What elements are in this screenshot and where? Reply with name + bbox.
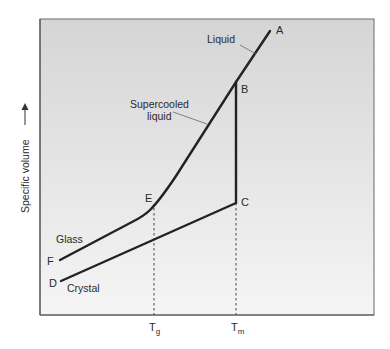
supercooled-label-line2: liquid — [147, 110, 172, 122]
y-axis-arrow-icon — [22, 103, 29, 110]
specific-volume-diagram: A B C E F D Liquid Supercooled liquid Gl… — [0, 0, 390, 349]
plot-area — [40, 19, 374, 315]
crystal-label: Crystal — [67, 282, 100, 294]
y-axis-label-group: Specific volume — [19, 103, 31, 213]
point-label-e: E — [145, 192, 152, 204]
svg-text:Tm: Tm — [231, 321, 245, 336]
point-label-a: A — [276, 24, 284, 36]
supercooled-label-line1: Supercooled — [130, 98, 189, 110]
tm-tick-label: Tm — [231, 321, 245, 336]
point-label-d: D — [49, 277, 57, 289]
point-label-f: F — [47, 255, 54, 267]
point-label-b: B — [241, 83, 248, 95]
point-label-c: C — [241, 196, 249, 208]
y-axis-label: Specific volume — [19, 139, 31, 213]
svg-text:Tg: Tg — [149, 321, 160, 336]
liquid-label: Liquid — [207, 33, 235, 45]
glass-label: Glass — [56, 233, 83, 245]
tg-tick-label: Tg — [149, 321, 160, 336]
